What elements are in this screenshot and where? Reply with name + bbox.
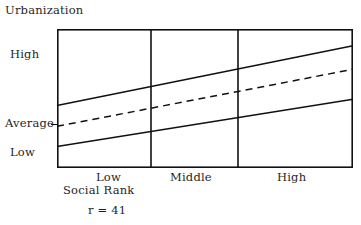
series-lower-band [57,99,353,146]
y-axis-title: Urbanization [5,5,83,17]
x-axis-title: Social Rank [63,185,134,197]
series-mean-trend [57,69,353,126]
y-axis-tick-low: Low [10,147,35,159]
series-upper-band [57,46,353,106]
urbanization-social-rank-chart: Urbanization High Average Low Low Middle… [0,0,361,225]
correlation-annotation: r = 41 [88,205,126,217]
y-axis-tick-high: High [10,49,39,61]
x-axis-tick-low: Low [96,172,121,184]
x-axis-tick-middle: Middle [170,172,212,184]
plot-area [57,29,353,168]
plot-svg [57,29,353,168]
x-axis-tick-high: High [277,172,306,184]
y-axis-tick-average: Average [5,118,54,130]
